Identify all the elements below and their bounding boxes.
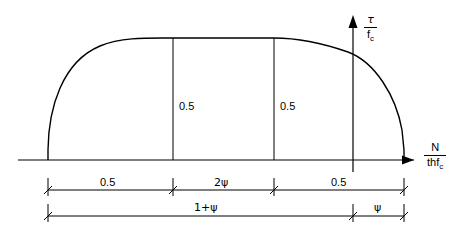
interior-label-right: 0.5 [280,101,295,112]
vertical-axis-label: τ fc [364,14,377,43]
dimension-lower-label-1: 1+ψ [194,202,217,213]
dimension-upper-label-1: 0.5 [100,177,115,188]
horizontal-axis-numerator: N [424,142,446,156]
horizontal-axis-denominator: thfc [424,156,446,172]
stress-block-diagram: τ fc N thfc 0.5 0.5 0.5 2ψ 0.5 1+ψ ψ [0,0,470,232]
dimension-upper-label-2: 2ψ [214,177,228,188]
diagram-canvas [0,0,470,232]
vertical-axis-arrowhead [349,15,358,28]
dimension-lower-label-2: ψ [374,202,381,213]
horizontal-axis-label: N thfc [424,142,446,171]
vertical-axis-denominator: fc [364,28,377,44]
dimension-upper-label-3: 0.5 [331,177,346,188]
dimension-row-lower-ticks [48,204,404,222]
interior-label-left: 0.5 [179,101,194,112]
vertical-axis-numerator: τ [364,14,377,28]
stress-block-curve [48,38,404,160]
